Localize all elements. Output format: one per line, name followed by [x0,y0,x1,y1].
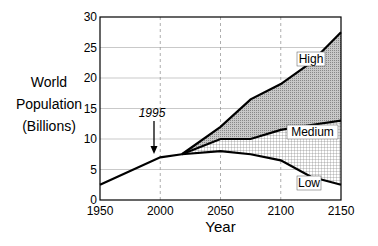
svg-text:1950: 1950 [87,204,114,218]
svg-text:High: High [299,52,324,66]
arrow-down-icon [151,146,158,154]
svg-text:Low: Low [298,176,320,190]
label-medium: Medium [287,125,338,139]
svg-text:Medium: Medium [291,125,334,139]
population-chart: High Medium Low 1995 0 5 10 15 20 25 30 … [0,0,378,246]
svg-text:10: 10 [84,132,98,146]
svg-text:5: 5 [90,163,97,177]
svg-text:2150: 2150 [328,204,355,218]
svg-text:30: 30 [84,10,98,24]
svg-text:World: World [31,74,67,90]
annotation-1995: 1995 [139,106,166,154]
label-high: High [297,52,325,66]
svg-text:2050: 2050 [207,204,234,218]
x-axis-label: Year [205,218,235,235]
svg-text:25: 25 [84,41,98,55]
svg-text:(Billions): (Billions) [22,118,76,134]
x-axis-ticks: 1950 2000 2050 2100 2150 [87,204,355,218]
svg-text:Population: Population [16,96,82,112]
svg-text:15: 15 [84,102,98,116]
svg-text:2100: 2100 [267,204,294,218]
svg-text:20: 20 [84,71,98,85]
y-axis-ticks: 0 5 10 15 20 25 30 [84,10,98,207]
svg-text:1995: 1995 [139,106,166,120]
svg-text:2000: 2000 [147,204,174,218]
label-low: Low [297,176,321,190]
y-axis-label: World Population (Billions) [16,74,82,134]
